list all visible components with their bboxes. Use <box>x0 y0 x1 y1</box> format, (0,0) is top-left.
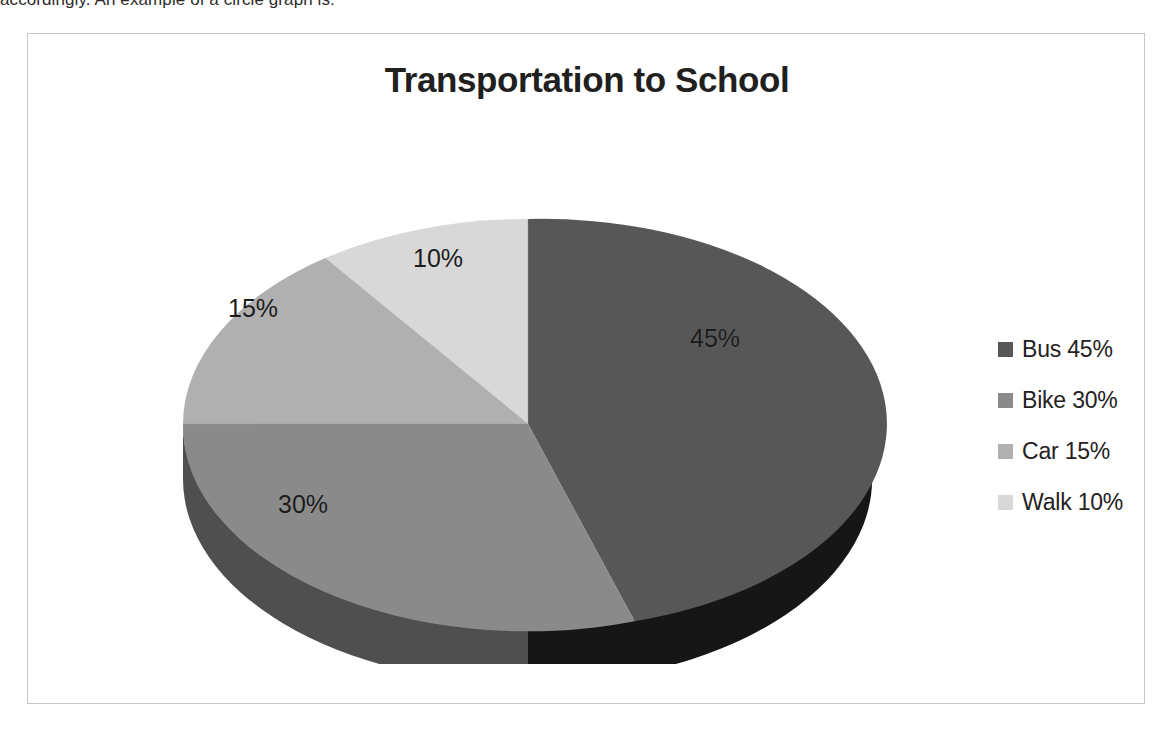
scanned-text-line: accordingly. An example of a circle grap… <box>0 0 700 11</box>
pie-label-bus: 45% <box>690 324 740 353</box>
scanned-text: accordingly. An example of a circle grap… <box>0 0 700 11</box>
legend-label: Walk 10% <box>1022 489 1123 516</box>
legend-label: Bus 45% <box>1022 336 1113 363</box>
chart-title: Transportation to School <box>28 60 1146 100</box>
legend-swatch-icon <box>998 342 1013 357</box>
pie-label-walk: 10% <box>413 244 463 273</box>
pie-chart-svg <box>128 164 918 664</box>
legend-label: Bike 30% <box>1022 387 1118 414</box>
legend-swatch-icon <box>998 495 1013 510</box>
legend-item-bike[interactable]: Bike 30% <box>998 375 1173 426</box>
pie-label-car: 15% <box>228 294 278 323</box>
chart-legend: Bus 45% Bike 30% Car 15% Walk 10% <box>998 324 1173 528</box>
pie-chart-plot-area: 45% 30% 15% 10% <box>128 164 918 664</box>
chart-frame: Transportation to School <box>27 33 1145 704</box>
legend-swatch-icon <box>998 444 1013 459</box>
legend-item-bus[interactable]: Bus 45% <box>998 324 1173 375</box>
legend-label: Car 15% <box>1022 438 1110 465</box>
legend-swatch-icon <box>998 393 1013 408</box>
pie-label-bike: 30% <box>278 490 328 519</box>
legend-item-car[interactable]: Car 15% <box>998 426 1173 477</box>
legend-item-walk[interactable]: Walk 10% <box>998 477 1173 528</box>
